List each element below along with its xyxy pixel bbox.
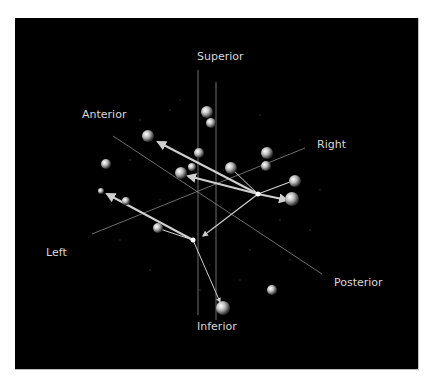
label-left: Left [46,246,67,259]
3d-anatomical-plot[interactable]: Superior Inferior Anterior Posterior Lef… [0,0,429,378]
label-right: Right [317,138,347,151]
spheres [98,106,301,315]
label-inferior: Inferior [197,320,237,333]
hub-right [256,192,261,197]
label-posterior: Posterior [334,276,383,289]
hubs [191,192,261,243]
hub-left [191,238,196,243]
label-anterior: Anterior [82,108,127,121]
label-superior: Superior [197,50,244,63]
axis-left-right [92,148,305,234]
